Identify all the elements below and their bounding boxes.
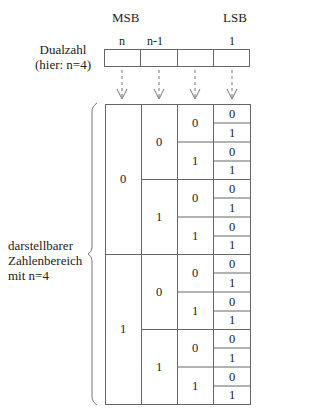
arrow-down-icon: [227, 70, 237, 99]
table-cell: 1: [141, 211, 177, 224]
table-cell: 1: [214, 202, 250, 215]
table-cell: 0: [177, 342, 213, 355]
table-cell: 0: [214, 296, 250, 309]
table-cell: 0: [177, 117, 213, 130]
table-cell: 0: [141, 136, 177, 149]
table-cell: 0: [214, 258, 250, 271]
down-arrows: [117, 70, 237, 99]
table-cell: 1: [214, 389, 250, 402]
table-cell: 1: [214, 127, 250, 140]
table-cell: 1: [141, 361, 177, 374]
table-cell: 1: [214, 164, 250, 177]
arrow-down-icon: [190, 70, 200, 99]
arrow-down-icon: [117, 70, 127, 99]
table-cell: 1: [177, 230, 213, 243]
table-cell: 1: [177, 380, 213, 393]
table-cell: 0: [105, 173, 141, 186]
table-cell: 0: [214, 371, 250, 384]
arrow-down-icon: [154, 70, 164, 99]
table-cell: 1: [214, 277, 250, 290]
table-cell: 1: [105, 323, 141, 336]
table-cell: 0: [214, 183, 250, 196]
table-cell: 0: [177, 267, 213, 280]
table-cell: 1: [177, 155, 213, 168]
table-cell: 1: [214, 314, 250, 327]
table-cell: 0: [214, 108, 250, 121]
table-cell: 0: [214, 333, 250, 346]
table-cell: 1: [177, 305, 213, 318]
table-cell: 1: [214, 239, 250, 252]
table-cell: 0: [214, 146, 250, 159]
curly-brace-icon: [88, 103, 97, 405]
table-cell: 0: [141, 286, 177, 299]
table-cell: 0: [177, 192, 213, 205]
table-cell: 0: [214, 221, 250, 234]
table-cell: 1: [214, 352, 250, 365]
